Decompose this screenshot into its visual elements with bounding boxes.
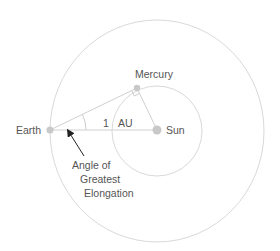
distance-unit-label: AU <box>118 117 133 129</box>
elongation-diagram: Earth Mercury Sun 1 AU Angle of Greatest… <box>0 0 280 251</box>
earth-dot <box>47 127 54 134</box>
sun-mercury-line <box>137 88 157 130</box>
sun-label: Sun <box>166 124 185 136</box>
mercury-dot <box>134 85 140 91</box>
angle-pointer-arrow <box>68 131 84 157</box>
angle-label-line3: Elongation <box>84 187 134 199</box>
mercury-label: Mercury <box>135 68 174 80</box>
sun-dot <box>153 126 162 135</box>
distance-value-label: 1 <box>103 117 109 129</box>
earth-label: Earth <box>16 124 41 136</box>
angle-label-line2: Greatest <box>80 173 120 185</box>
angle-label-line1: Angle of <box>72 159 111 171</box>
elongation-angle-arc <box>83 115 87 131</box>
